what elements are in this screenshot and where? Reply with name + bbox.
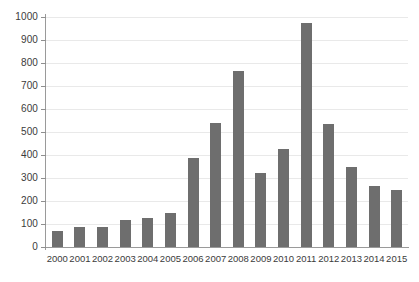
bar <box>97 227 108 247</box>
x-axis-tick-label: 2011 <box>295 253 318 264</box>
bar <box>369 186 380 247</box>
x-axis-tick-label: 2000 <box>46 253 69 264</box>
y-axis-tick-mark <box>41 247 46 248</box>
bar <box>188 158 199 247</box>
x-axis-tick-label: 2002 <box>91 253 114 264</box>
bar-chart: 01002003004005006007008009001000 2000200… <box>0 0 419 282</box>
bar <box>301 23 312 247</box>
x-axis-tick-label: 2006 <box>182 253 205 264</box>
x-axis-tick-labels: 2000200120022003200420052006200720082009… <box>46 253 408 271</box>
bar <box>323 124 334 247</box>
plot-area <box>46 17 408 247</box>
y-axis-tick-label: 100 <box>0 218 38 229</box>
y-axis-tick-label: 300 <box>0 172 38 183</box>
bar <box>142 218 153 247</box>
x-axis-line <box>45 247 409 248</box>
x-axis-tick-label: 2008 <box>227 253 250 264</box>
y-axis-tick-label: 1000 <box>0 11 38 22</box>
gridline <box>46 155 408 156</box>
x-axis-tick-label: 2014 <box>363 253 386 264</box>
y-axis-tick-labels: 01002003004005006007008009001000 <box>0 0 38 282</box>
y-axis-tick-label: 700 <box>0 80 38 91</box>
gridline <box>46 109 408 110</box>
bar <box>233 71 244 247</box>
x-axis-tick-label: 2015 <box>385 253 408 264</box>
y-axis-tick-label: 600 <box>0 103 38 114</box>
x-axis-tick-label: 2010 <box>272 253 295 264</box>
bar <box>74 227 85 247</box>
x-axis-tick-label: 2003 <box>114 253 137 264</box>
x-axis-tick-label: 2013 <box>340 253 363 264</box>
bar <box>120 220 131 247</box>
gridline <box>46 132 408 133</box>
y-axis-tick-label: 500 <box>0 126 38 137</box>
y-axis-tick-label: 200 <box>0 195 38 206</box>
y-axis-tick-label: 400 <box>0 149 38 160</box>
y-axis-tick-label: 800 <box>0 57 38 68</box>
gridline <box>46 86 408 87</box>
gridline <box>46 63 408 64</box>
x-axis-tick-label: 2001 <box>69 253 92 264</box>
gridline <box>46 17 408 18</box>
y-axis-tick-label: 900 <box>0 34 38 45</box>
x-axis-tick-label: 2005 <box>159 253 182 264</box>
bar <box>346 167 357 247</box>
x-axis-tick-label: 2012 <box>318 253 341 264</box>
bar <box>391 190 402 247</box>
gridline <box>46 40 408 41</box>
bar <box>52 231 63 247</box>
bar <box>210 123 221 247</box>
x-axis-tick-label: 2004 <box>137 253 160 264</box>
bar <box>165 213 176 247</box>
bar <box>278 149 289 247</box>
y-axis-tick-label: 0 <box>0 241 38 252</box>
x-axis-tick-label: 2007 <box>204 253 227 264</box>
x-axis-tick-label: 2009 <box>250 253 273 264</box>
bar <box>255 173 266 247</box>
